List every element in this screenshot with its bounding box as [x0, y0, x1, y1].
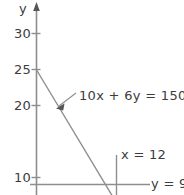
- y-axis-label: y: [19, 1, 27, 16]
- math-graph-figure: y 30 25 20 10 10x + 6y = 150 x = 12 y = …: [0, 0, 184, 195]
- diagonal-line-equation-label: 10x + 6y = 150: [79, 88, 184, 103]
- y-tick-label-25: 25: [5, 62, 31, 77]
- y-tick-label-30: 30: [5, 26, 31, 41]
- y-axis-arrow-icon: [33, 2, 40, 11]
- y-tick-label-20: 20: [5, 98, 31, 113]
- horizontal-line-equation-label: y = 9: [151, 176, 184, 191]
- annotation-leader-line: [59, 93, 76, 106]
- y-tick-label-10: 10: [5, 170, 31, 185]
- vertical-line-equation-label: x = 12: [121, 147, 166, 162]
